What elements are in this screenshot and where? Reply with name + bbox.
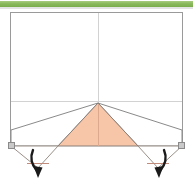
left-arrow-head bbox=[34, 166, 43, 178]
corner-marker-bottom-left bbox=[9, 143, 15, 149]
right-lower-wedge bbox=[138, 146, 182, 168]
right-arrow-head bbox=[155, 166, 164, 178]
diagram-canvas bbox=[0, 0, 193, 183]
left-lower-wedge bbox=[11, 146, 58, 168]
corner-marker-bottom-right bbox=[179, 143, 185, 149]
fold-construction-figure bbox=[0, 0, 193, 183]
